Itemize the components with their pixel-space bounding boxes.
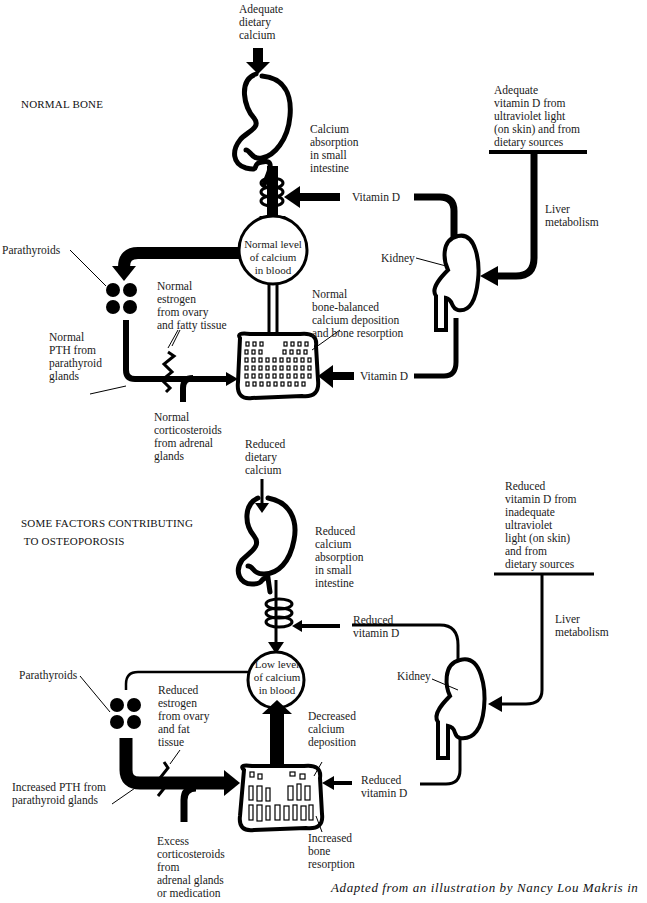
normal-estrogen-label: Normal estrogen from ovary and fatty tis… xyxy=(157,280,227,332)
decreased-deposition-label: Decreased calcium deposition xyxy=(308,710,356,749)
normal-blood-calcium-label: Normal level of calcium in blood xyxy=(238,238,308,277)
vitamin-d-arrow-lower xyxy=(318,365,354,388)
parathyroids-label-2: Parathyroids xyxy=(19,669,77,682)
adequate-vitamin-d-source-label: Adequate vitamin D from ultraviolet ligh… xyxy=(494,84,580,149)
vitamin-d-upper-label: Vitamin D xyxy=(352,191,400,204)
reduced-vitamin-d-lower-label: Reduced vitamin D xyxy=(361,774,407,800)
reduced-absorption-label: Reduced calcium absorption in small inte… xyxy=(315,525,364,590)
kidney-upper-line xyxy=(414,197,454,246)
liver-to-kidney-line-2 xyxy=(500,574,542,704)
low-blood-calcium-label: Low level of calcium in blood xyxy=(248,658,306,697)
normal-bone-title: NORMAL BONE xyxy=(21,95,103,113)
osteoporosis-title: SOME FACTORS CONTRIBUTING TO OSTEOPOROSI… xyxy=(21,514,193,550)
calcium-absorption-label: Calcium absorption in small intestine xyxy=(310,123,359,175)
excess-corticosteroid-line xyxy=(184,788,196,822)
increased-pth-label: Increased PTH from parathyroid glands xyxy=(12,781,106,807)
reduced-vitamin-d-arrow-lower xyxy=(322,776,352,790)
reduced-vitamin-d-source-label: Reduced vitamin D from inadequate ultrav… xyxy=(505,480,577,571)
osteoporotic-bone-block xyxy=(240,766,322,831)
normal-corticosteroids-label: Normal corticosteroids from adrenal glan… xyxy=(154,411,222,463)
reduced-vitamin-d-upper-label: Reduced vitamin D xyxy=(353,614,399,640)
liver-metabolism-label: Liver metabolism xyxy=(545,203,599,229)
kidney-label: Kidney xyxy=(381,252,415,265)
liver-metabolism-label-2: Liver metabolism xyxy=(555,613,609,639)
parathyroid-glands-2 xyxy=(110,698,141,729)
bone-to-blood-arrow xyxy=(262,700,292,770)
vitamin-d-lower-label: Vitamin D xyxy=(360,370,408,383)
normal-pth-label: Normal PTH from parathyroid glands xyxy=(49,331,102,383)
reduced-dietary-calcium-label: Reduced dietary calcium xyxy=(245,438,285,477)
parathyroids-label: Parathyroids xyxy=(2,244,60,257)
reduced-vitamin-d-arrow-upper xyxy=(292,620,340,632)
kidney-shape xyxy=(434,236,478,330)
stomach-outline xyxy=(235,74,291,185)
stomach-outline-2 xyxy=(238,498,295,592)
blood-to-parathyroid-arrow xyxy=(124,253,240,268)
intestine-coils-2 xyxy=(266,599,292,627)
increased-resorption-label: Increased bone resorption xyxy=(308,832,355,871)
vitamin-d-arrow-upper xyxy=(284,186,340,208)
bone-balance-label: Normal bone-balanced calcium deposition … xyxy=(312,288,403,340)
illustration-credit-caption: Adapted from an illustration by Nancy Lo… xyxy=(331,880,638,896)
reduced-estrogen-label: Reduced estrogen from ovary and fat tiss… xyxy=(158,684,209,749)
adequate-dietary-calcium-label: Adequate dietary calcium xyxy=(239,3,283,42)
excess-corticosteroids-label: Excess corticosteroids from adrenal glan… xyxy=(157,835,225,900)
liver-to-kidney-line xyxy=(496,152,534,276)
estrogen-zigzag xyxy=(162,352,174,392)
parathyroid-glands xyxy=(106,283,137,314)
dietary-calcium-arrow xyxy=(246,48,270,74)
normal-bone-block xyxy=(238,334,318,399)
kidney-label-2: Kidney xyxy=(397,670,431,683)
